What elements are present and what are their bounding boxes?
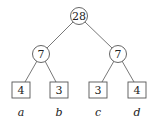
- leaf-d-label: d: [133, 106, 140, 119]
- internal-node-left: 7: [33, 46, 50, 63]
- leaf-node-a: 4 a: [12, 82, 30, 119]
- root-node: 28: [71, 8, 88, 25]
- edge-left-b: [45, 61, 56, 82]
- leaf-node-c: 3 c: [89, 82, 107, 119]
- leaf-a-label: a: [18, 106, 25, 119]
- leaf-c-label: c: [95, 106, 101, 119]
- leaf-a-value: 4: [18, 84, 25, 97]
- leaf-node-b: 3 b: [50, 82, 68, 119]
- edge-root-left: [47, 22, 73, 48]
- internal-left-value: 7: [38, 48, 45, 61]
- edge-root-right: [85, 22, 112, 48]
- edge-right-c: [102, 61, 114, 82]
- leaf-b-value: 3: [56, 84, 63, 97]
- edge-right-d: [122, 61, 134, 82]
- leaf-c-value: 3: [95, 84, 102, 97]
- internal-node-right: 7: [110, 46, 127, 63]
- leaf-b-label: b: [55, 106, 62, 119]
- root-value: 28: [72, 10, 86, 23]
- leaf-d-value: 4: [134, 84, 141, 97]
- leaf-node-d: 4 d: [128, 82, 146, 119]
- edge-left-a: [25, 61, 37, 82]
- tree-diagram: 28 7 7 4 a 3 b 3 c 4 d: [0, 0, 157, 123]
- internal-right-value: 7: [115, 48, 122, 61]
